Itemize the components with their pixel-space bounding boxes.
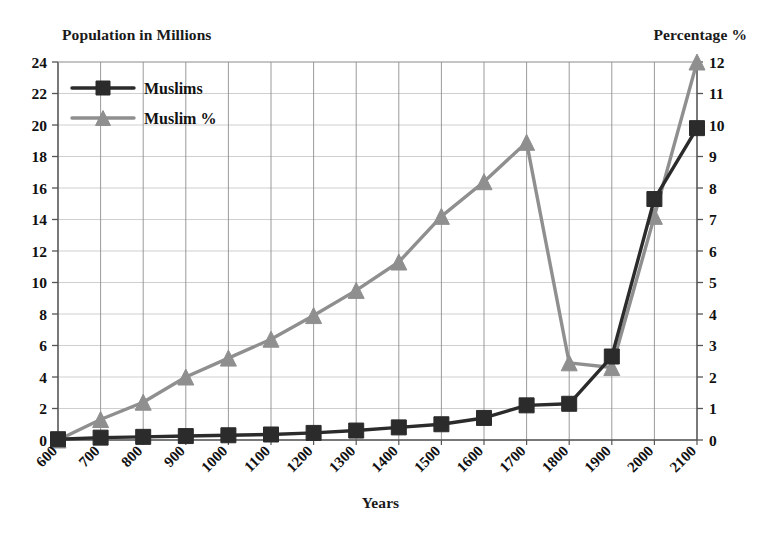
- tick-labels: 0246810121416182022240123456789101112600…: [32, 54, 725, 476]
- y-axis-tick-label: 14: [32, 211, 48, 228]
- data-point-marker: [519, 398, 534, 413]
- chart-container: Population in Millions Percentage % Year…: [0, 0, 761, 537]
- data-point-marker: [519, 134, 535, 150]
- x-axis-tick-label: 2000: [624, 443, 657, 476]
- legend-label: Muslims: [144, 80, 203, 97]
- chart-legend: MuslimsMuslim %: [72, 80, 216, 127]
- x-axis-tick-label: 1500: [411, 443, 444, 476]
- x-axis-tick-label: 900: [161, 443, 188, 470]
- y2-axis-tick-label: 4: [709, 306, 717, 323]
- y2-axis-tick-label: 8: [709, 180, 717, 197]
- data-point-marker: [562, 396, 577, 411]
- x-axis-tick-label: 1300: [326, 443, 359, 476]
- x-axis-tick-label: 1000: [198, 443, 231, 476]
- data-point-marker: [51, 432, 66, 447]
- y2-axis-tick-label: 0: [709, 432, 717, 449]
- y-axis-tick-label: 22: [32, 85, 48, 102]
- y-axis-tick-label: 20: [32, 117, 48, 134]
- data-point-marker: [391, 420, 406, 435]
- data-point-marker: [178, 429, 193, 444]
- x-axis-tick-label: 2100: [667, 443, 700, 476]
- x-axis-tick-label: 1400: [368, 443, 401, 476]
- y-axis-tick-label: 18: [32, 148, 48, 165]
- data-point-marker: [263, 331, 279, 347]
- y2-axis-tick-label: 11: [709, 85, 724, 102]
- y-axis-tick-label: 16: [32, 180, 48, 197]
- legend-entry: Muslim %: [72, 110, 216, 127]
- y2-axis-tick-label: 5: [709, 274, 717, 291]
- y2-axis-tick-label: 3: [709, 337, 717, 354]
- y2-axis-tick-label: 12: [709, 54, 725, 71]
- data-point-marker: [221, 428, 236, 443]
- y-axis-tick-label: 4: [39, 369, 47, 386]
- legend-entry: Muslims: [72, 80, 203, 97]
- x-axis-tick-label: 1600: [454, 443, 487, 476]
- y2-axis-tick-label: 9: [709, 148, 717, 165]
- y-axis-tick-label: 2: [39, 400, 47, 417]
- data-point-marker: [349, 423, 364, 438]
- data-point-marker: [306, 308, 322, 324]
- legend-marker-swatch: [96, 81, 110, 95]
- y-axis-tick-label: 6: [39, 337, 47, 354]
- data-point-marker: [93, 412, 109, 428]
- data-point-marker: [477, 410, 492, 425]
- x-axis-tick-label: 700: [75, 443, 102, 470]
- y2-axis-tick-label: 2: [709, 369, 717, 386]
- y-axis-tick-label: 8: [39, 306, 47, 323]
- legend-label: Muslim %: [144, 110, 216, 127]
- y2-axis-tick-label: 6: [709, 243, 717, 260]
- data-point-marker: [136, 429, 151, 444]
- y-axis-tick-label: 24: [32, 54, 48, 71]
- x-axis-tick-label: 800: [118, 443, 145, 470]
- x-axis-tick-label: 1900: [581, 443, 614, 476]
- y-axis-tick-label: 10: [32, 274, 48, 291]
- data-point-marker: [690, 121, 705, 136]
- data-point-marker: [434, 417, 449, 432]
- data-point-marker: [306, 425, 321, 440]
- x-axis-tick-label: 1700: [496, 443, 529, 476]
- x-axis-tick-label: 1800: [539, 443, 572, 476]
- y-axis-tick-label: 12: [32, 243, 48, 260]
- data-point-marker: [93, 430, 108, 445]
- y2-axis-tick-label: 10: [709, 117, 725, 134]
- data-point-marker: [604, 349, 619, 364]
- x-axis-tick-label: 1200: [283, 443, 316, 476]
- data-point-marker: [220, 350, 236, 366]
- data-point-marker: [135, 394, 151, 410]
- data-point-marker: [647, 192, 662, 207]
- y2-axis-tick-label: 7: [709, 211, 717, 228]
- plot-area: MuslimsMuslim % 024681012141618202224012…: [0, 0, 761, 537]
- y2-axis-tick-label: 1: [709, 400, 717, 417]
- x-axis-tick-label: 1100: [241, 443, 273, 475]
- data-point-marker: [264, 427, 279, 442]
